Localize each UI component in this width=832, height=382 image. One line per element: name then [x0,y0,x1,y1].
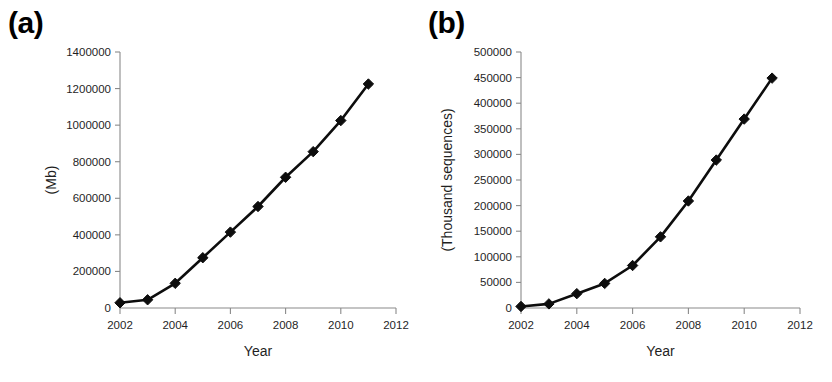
y-tick-label-b-5: 250000 [474,174,512,186]
plot-area-b: 0500001000001500002000002500003000003500… [416,0,832,382]
data-point-b-2004 [572,288,582,298]
y-tick-label-a-2: 400000 [73,229,111,241]
chart-panel-a: (a) 020000040000060000080000010000001200… [0,0,416,382]
x-tick-label-a-1: 2004 [162,319,188,331]
y-tick-label-b-1: 50000 [480,276,512,288]
y-tick-label-a-5: 1000000 [66,119,111,131]
x-tick-label-a-3: 2008 [273,319,299,331]
y-tick-label-b-10: 500000 [474,46,512,58]
x-axis-title-b: Year [646,343,675,359]
data-point-b-2002 [516,301,526,311]
y-tick-label-a-3: 600000 [73,192,111,204]
y-tick-label-b-7: 350000 [474,123,512,135]
x-tick-label-a-5: 2012 [383,319,409,331]
y-tick-label-a-1: 200000 [73,265,111,277]
x-tick-label-b-4: 2010 [731,319,757,331]
series-line-b [521,78,772,306]
y-tick-label-a-7: 1400000 [66,46,111,58]
y-tick-label-b-2: 100000 [474,251,512,263]
x-tick-label-a-0: 2002 [107,319,133,331]
x-tick-label-b-5: 2012 [787,319,813,331]
y-axis-title-a: (Mb) [43,166,59,195]
y-tick-label-b-8: 400000 [474,97,512,109]
figure-root: (a) 020000040000060000080000010000001200… [0,0,832,382]
data-point-a-2002 [115,298,125,308]
y-tick-label-b-3: 150000 [474,225,512,237]
y-tick-label-a-4: 800000 [73,156,111,168]
plot-area-a: 0200000400000600000800000100000012000001… [0,0,416,382]
chart-panel-b: (b) 050000100000150000200000250000300000… [416,0,832,382]
x-tick-label-a-2: 2006 [218,319,244,331]
x-tick-label-b-0: 2002 [508,319,534,331]
x-tick-label-b-2: 2006 [620,319,646,331]
y-tick-label-b-6: 300000 [474,148,512,160]
y-tick-label-a-6: 1200000 [66,83,111,95]
y-tick-label-b-0: 0 [506,302,512,314]
x-tick-label-b-1: 2004 [564,319,590,331]
series-line-a [120,84,368,303]
y-axis-title-b: (Thousand sequences) [439,108,455,251]
y-tick-label-b-9: 450000 [474,72,512,84]
x-axis-title-a: Year [244,343,273,359]
y-tick-label-b-4: 200000 [474,200,512,212]
x-tick-label-a-4: 2010 [328,319,354,331]
y-tick-label-a-0: 0 [105,302,111,314]
x-tick-label-b-3: 2008 [676,319,702,331]
